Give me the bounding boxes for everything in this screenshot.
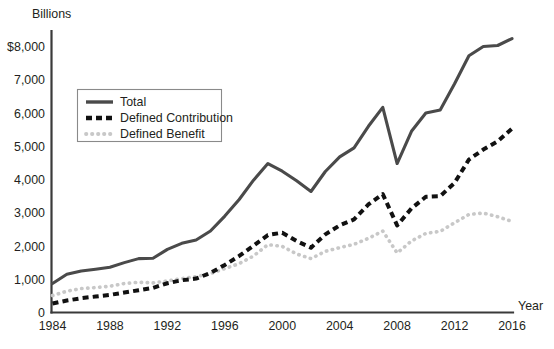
y-axis-tick-labels: 01,0002,0003,0004,0005,0006,0007,000$8,0… bbox=[7, 40, 45, 320]
x-tick-label: 2012 bbox=[441, 319, 469, 333]
x-tick-label: 2008 bbox=[383, 319, 411, 333]
y-tick-label: 0 bbox=[38, 306, 45, 320]
legend-label-defined-contribution: Defined Contribution bbox=[120, 111, 233, 125]
y-tick-label: $8,000 bbox=[7, 40, 45, 54]
series-line-defined-benefit bbox=[53, 213, 513, 295]
x-axis-title: Year bbox=[518, 299, 543, 313]
x-tick-label: 2000 bbox=[268, 319, 296, 333]
x-tick-label: 2016 bbox=[498, 319, 526, 333]
x-tick-label: 1988 bbox=[96, 319, 124, 333]
y-tick-label: 6,000 bbox=[14, 107, 45, 121]
y-tick-label: 7,000 bbox=[14, 73, 45, 87]
y-axis-unit-label: Billions bbox=[32, 7, 71, 21]
series-line-defined-contribution bbox=[53, 129, 513, 304]
y-tick-label: 1,000 bbox=[14, 273, 45, 287]
y-tick-label: 3,000 bbox=[14, 206, 45, 220]
chart-container: Billions 01,0002,0003,0004,0005,0006,000… bbox=[0, 0, 554, 349]
y-tick-label: 5,000 bbox=[14, 140, 45, 154]
x-axis-tick-labels: 198419881992199620002004200820122016 bbox=[39, 319, 526, 333]
x-tick-label: 1996 bbox=[211, 319, 239, 333]
legend-label-defined-benefit: Defined Benefit bbox=[120, 127, 205, 141]
legend-label-total: Total bbox=[120, 95, 146, 109]
y-tick-label: 4,000 bbox=[14, 173, 45, 187]
x-tick-label: 2004 bbox=[326, 319, 354, 333]
y-tick-label: 2,000 bbox=[14, 240, 45, 254]
chart-legend: Total Defined Contribution Defined Benef… bbox=[78, 90, 234, 142]
retirement-assets-line-chart: Billions 01,0002,0003,0004,0005,0006,000… bbox=[0, 0, 554, 349]
x-tick-label: 1992 bbox=[154, 319, 182, 333]
x-tick-label: 1984 bbox=[39, 319, 67, 333]
